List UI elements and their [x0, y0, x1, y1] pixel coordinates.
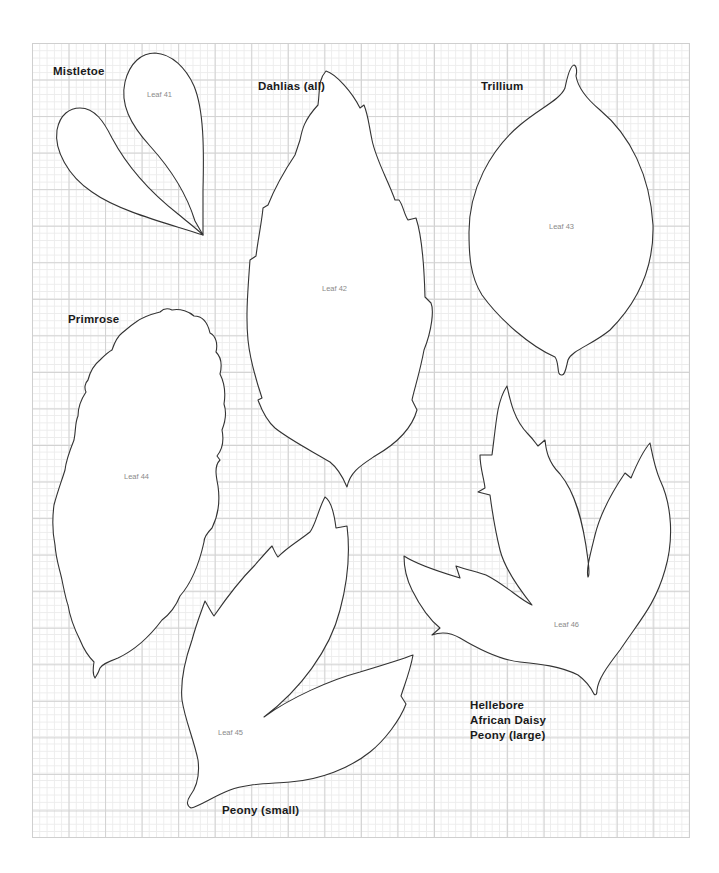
- leaf-42-shape: [247, 71, 432, 487]
- leaf-43-label: Leaf 43: [549, 222, 574, 231]
- label-trillium: Trillium: [481, 79, 524, 93]
- leaf-45-shape: [182, 497, 413, 808]
- leaf-41-shape: [57, 53, 204, 235]
- label-peony-large: Peony (large): [470, 728, 545, 742]
- leaf-46-label: Leaf 46: [554, 620, 579, 629]
- label-peony-small: Peony (small): [222, 803, 299, 817]
- leaf-outlines: [0, 0, 719, 873]
- leaf-45-label: Leaf 45: [218, 728, 243, 737]
- leaf-41-label: Leaf 41: [147, 90, 172, 99]
- label-hellebore: Hellebore: [470, 698, 524, 712]
- label-mistletoe: Mistletoe: [53, 64, 105, 78]
- leaf-43-shape: [469, 65, 653, 375]
- label-african-daisy: African Daisy: [470, 713, 546, 727]
- leaf-44-label: Leaf 44: [124, 472, 149, 481]
- template-sheet: Mistletoe Dahlias (all) Trillium Primros…: [0, 0, 719, 873]
- label-dahlias: Dahlias (all): [258, 79, 325, 93]
- label-primrose: Primrose: [68, 312, 119, 326]
- leaf-42-label: Leaf 42: [322, 284, 347, 293]
- leaf-46-shape: [404, 386, 671, 695]
